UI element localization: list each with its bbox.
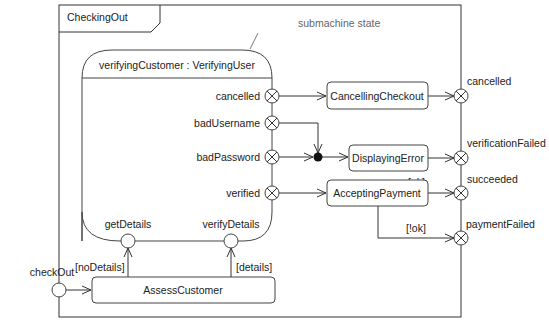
frame-exit-succeeded-icon[interactable] [454, 186, 468, 200]
entry-point-verifydetails-icon[interactable] [224, 234, 238, 248]
entry-point-checkout-icon[interactable] [52, 283, 66, 297]
frame-exit-cancelled-icon[interactable] [454, 89, 468, 103]
exit-point-verified-icon[interactable] [265, 186, 279, 200]
state-assesscustomer[interactable]: AssessCustomer [92, 277, 275, 303]
exit-point-cancelled-icon[interactable] [265, 89, 279, 103]
frame-exit-label-verificationfailed: verificationFailed [467, 137, 546, 149]
junction-pseudostate [314, 153, 323, 162]
entry-label-verifydetails: verifyDetails [202, 218, 259, 230]
frame-title: CheckingOut [67, 11, 128, 23]
guard-not-ok: [!ok] [406, 222, 426, 234]
state-label: DisplayingError [352, 152, 424, 164]
exit-point-badpassword-icon[interactable] [265, 150, 279, 164]
frame-exit-label-paymentfailed: paymentFailed [466, 218, 535, 230]
state-cancellingcheckout[interactable]: CancellingCheckout [327, 82, 428, 109]
state-displayingerror[interactable]: DisplayingError [349, 145, 428, 171]
entry-label-getdetails: getDetails [105, 218, 152, 230]
submachine-title: verifyingCustomer : VerifyingUser [99, 59, 255, 71]
guard-details: [details] [236, 261, 272, 273]
state-acceptingpayment[interactable]: AcceptingPayment [327, 180, 428, 206]
state-label: CancellingCheckout [330, 90, 423, 102]
state-machine-diagram: CheckingOut submachine state verifyingCu… [0, 0, 549, 326]
entry-point-getdetails-icon[interactable] [121, 234, 135, 248]
submachine-note: submachine state [250, 17, 380, 49]
exit-label-cancelled: cancelled [216, 90, 261, 102]
guard-nodetails: [noDetails] [75, 261, 125, 273]
exit-label-badpassword: badPassword [196, 151, 260, 163]
frame-exit-label-succeeded: succeeded [467, 173, 518, 185]
frame-exit-label-cancelled: cancelled [467, 75, 512, 87]
submachine-state-verifyingcustomer[interactable]: verifyingCustomer : VerifyingUser [82, 50, 272, 241]
frame-exit-verificationfailed-icon[interactable] [454, 151, 468, 165]
exit-label-verified: verified [226, 187, 260, 199]
entry-label-checkout: checkOut [30, 266, 74, 278]
exit-label-badusername: badUsername [194, 117, 260, 129]
state-label: AssessCustomer [143, 284, 223, 296]
note-text: submachine state [298, 17, 380, 29]
exit-point-badusername-icon[interactable] [265, 116, 279, 130]
state-label: AcceptingPayment [333, 187, 421, 199]
frame-exit-paymentfailed-icon[interactable] [454, 231, 468, 245]
